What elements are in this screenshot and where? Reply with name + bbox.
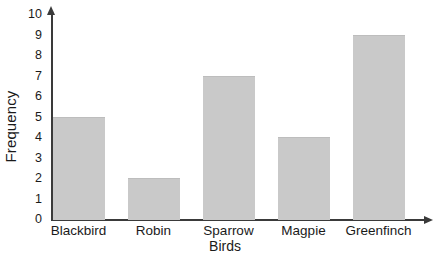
bar-chart: Frequency 012345678910 BlackbirdRobinSpa…: [0, 0, 446, 260]
y-tick-label: 7: [14, 70, 42, 83]
x-tick-label: Greenfinch: [329, 223, 429, 238]
y-tick-label: 3: [14, 152, 42, 165]
y-tick-label: 8: [14, 49, 42, 62]
bar: [203, 76, 255, 221]
y-tick-label: 4: [14, 131, 42, 144]
y-tick-label: 9: [14, 29, 42, 42]
bar: [353, 35, 405, 221]
bar: [278, 137, 330, 220]
bar: [128, 178, 180, 220]
x-axis-title: Birds: [165, 238, 285, 254]
y-tick-label: 6: [14, 90, 42, 103]
y-tick-label: 5: [14, 111, 42, 124]
bar: [53, 117, 105, 221]
y-tick-label: 1: [14, 193, 42, 206]
y-axis-arrowhead: [47, 6, 55, 15]
y-tick-label: 2: [14, 172, 42, 185]
y-tick-label: 10: [14, 8, 42, 21]
